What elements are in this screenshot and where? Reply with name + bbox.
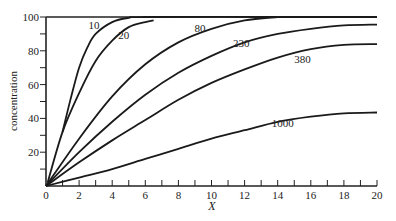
curve-230 (46, 25, 377, 186)
x-tick-label: 18 (338, 189, 350, 201)
x-tick-label: 12 (239, 189, 250, 201)
curve-label-380: 380 (294, 53, 311, 65)
curves (46, 17, 377, 186)
curve-label-20: 20 (118, 29, 130, 41)
x-tick-label: 20 (372, 189, 384, 201)
y-tick-label: 80 (28, 45, 40, 57)
x-tick-label: 8 (176, 189, 182, 201)
x-tick-label: 0 (43, 189, 49, 201)
x-tick-label: 14 (272, 189, 284, 201)
x-tick-label: 6 (143, 189, 149, 201)
axes: 0246810121416182020406080100 (23, 11, 384, 201)
curve-1000 (46, 112, 377, 186)
concentration-chart: 0246810121416182020406080100 10208023038… (0, 0, 396, 221)
x-tick-label: 16 (305, 189, 317, 201)
x-tick-label: 2 (76, 189, 82, 201)
curve-label-10: 10 (88, 19, 100, 31)
y-axis-label: concentration (7, 71, 19, 131)
y-tick-label: 60 (28, 79, 40, 91)
x-tick-label: 4 (109, 189, 115, 201)
curve-label-80: 80 (194, 22, 206, 34)
y-tick-label: 100 (23, 11, 40, 23)
curve-label-1000: 1000 (272, 117, 295, 129)
x-axis-label: X (207, 199, 216, 213)
y-tick-label: 20 (28, 146, 40, 158)
y-tick-label: 40 (28, 112, 40, 124)
curve-label-230: 230 (233, 37, 250, 49)
